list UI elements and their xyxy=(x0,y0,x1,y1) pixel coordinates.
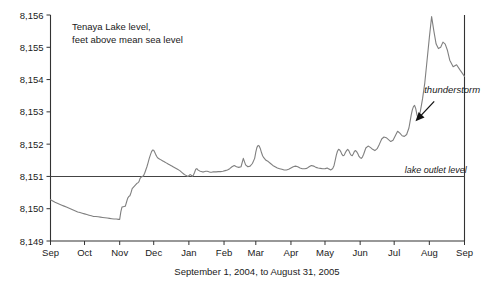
chart-title-line-2: feet above mean sea level xyxy=(72,34,183,45)
lake-outlet-level-label: lake outlet level xyxy=(405,165,468,175)
x-tick-label: Sep xyxy=(456,247,473,258)
x-axis-ticks: SepOctNovDecJanFebMarAprMayJunJulAugSep xyxy=(42,241,473,258)
y-tick-label: 8,152 xyxy=(20,139,44,150)
x-tick-label: Feb xyxy=(216,247,232,258)
y-axis-ticks: 8,1568,1558,1548,1538,1528,1518,1508,149 xyxy=(20,10,51,247)
thunderstorm-arrow-icon xyxy=(416,101,435,121)
x-tick-label: Jun xyxy=(352,247,367,258)
chart-figure: 8,1568,1558,1548,1538,1528,1518,1508,149… xyxy=(0,0,483,289)
y-tick-label: 8,149 xyxy=(20,236,44,247)
x-tick-label: Jul xyxy=(388,247,400,258)
x-tick-label: Mar xyxy=(248,247,264,258)
chart-caption: September 1, 2004, to August 31, 2005 xyxy=(174,266,339,277)
x-tick-label: Aug xyxy=(421,247,438,258)
x-tick-label: May xyxy=(316,247,334,258)
y-tick-label: 8,150 xyxy=(20,203,44,214)
chart-title-line-1: Tenaya Lake level, xyxy=(72,21,151,32)
y-tick-label: 8,151 xyxy=(20,171,44,182)
y-tick-label: 8,153 xyxy=(20,106,44,117)
x-tick-label: Apr xyxy=(284,247,299,258)
x-tick-label: Oct xyxy=(77,247,92,258)
x-tick-label: Dec xyxy=(145,247,162,258)
x-tick-label: Nov xyxy=(111,247,128,258)
chart-svg: 8,1568,1558,1548,1538,1528,1518,1508,149… xyxy=(0,0,483,289)
y-tick-label: 8,156 xyxy=(20,10,44,21)
lake-level-series-line xyxy=(51,17,465,220)
x-tick-label: Sep xyxy=(42,247,59,258)
y-tick-label: 8,154 xyxy=(20,74,44,85)
y-tick-label: 8,155 xyxy=(20,42,44,53)
thunderstorm-annotation-label: thunderstorm xyxy=(424,84,480,95)
x-tick-label: Jan xyxy=(181,247,196,258)
